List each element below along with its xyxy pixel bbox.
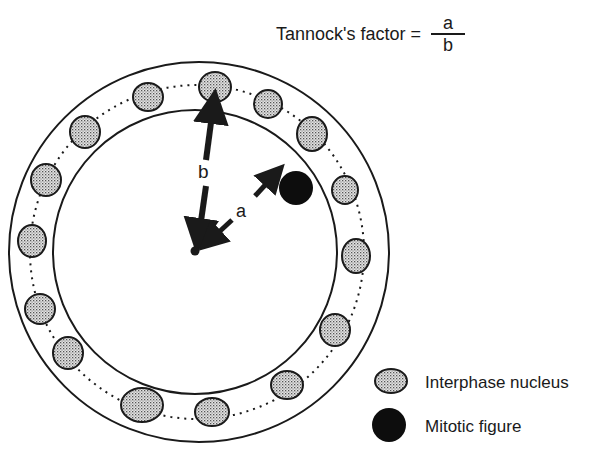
legend-mitotic-icon (372, 408, 406, 442)
interphase-nucleus (133, 83, 163, 111)
center-point (191, 247, 200, 256)
mitotic-figure (279, 171, 313, 205)
arrow-b-label: b (198, 161, 209, 182)
interphase-nucleus (342, 239, 370, 273)
interphase-nucleus (18, 225, 46, 257)
interphase-nucleus (25, 294, 55, 324)
interphase-nucleus (121, 388, 163, 422)
legend-item-mitotic: Mitotic figure (425, 417, 521, 437)
interphase-nucleus (320, 314, 350, 346)
interphase-nucleus (332, 176, 358, 204)
arrow-a-label: a (236, 201, 247, 221)
interphase-nucleus (297, 117, 327, 151)
interphase-nucleus (271, 371, 303, 399)
legend-item-interphase: Interphase nucleus (425, 373, 569, 393)
interphase-nucleus (199, 72, 231, 102)
interphase-nucleus (53, 337, 83, 369)
interphase-nucleus (31, 164, 61, 196)
interphase-nucleus (70, 116, 100, 148)
interphase-nucleus (195, 398, 229, 426)
legend-nucleus-icon (375, 369, 407, 393)
interphase-nucleus (254, 90, 282, 118)
